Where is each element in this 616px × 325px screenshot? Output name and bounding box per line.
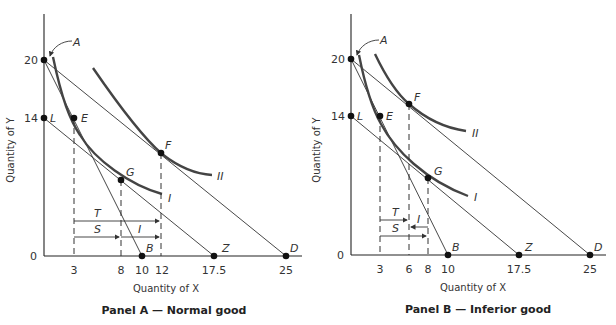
budget-line-lz xyxy=(351,116,519,255)
x-tick: 3 xyxy=(71,264,78,277)
label-z: Z xyxy=(524,241,533,254)
label-f: F xyxy=(414,91,421,104)
label-s: S xyxy=(392,222,399,235)
point-g xyxy=(425,175,432,182)
point-a xyxy=(348,56,355,63)
label-b: B xyxy=(146,242,154,255)
label-t: T xyxy=(94,207,102,220)
point-b xyxy=(445,252,452,259)
label-a: A xyxy=(379,34,388,47)
x-tick: 25 xyxy=(583,263,597,276)
label-l: L xyxy=(50,112,56,125)
label-d: D xyxy=(290,242,298,255)
diagram-canvas: T S I A L E G F B Z D I II 0 14 20 3 8 1… xyxy=(0,0,616,325)
budget-line-lz xyxy=(44,118,214,256)
label-f: F xyxy=(165,139,172,152)
label-g: G xyxy=(434,165,443,178)
panel-a: T S I A L E G F B Z D I II 0 14 20 3 8 1… xyxy=(5,14,302,317)
pointer-a xyxy=(50,41,72,56)
y-axis-label: Quantity of Y xyxy=(311,116,322,182)
x-tick: 6 xyxy=(406,263,413,276)
point-e xyxy=(71,115,78,122)
label-b: B xyxy=(452,241,460,254)
indifference-curve-i xyxy=(359,55,468,196)
panel-caption: Panel B — Inferior good xyxy=(405,303,551,316)
point-l xyxy=(41,115,48,122)
point-f xyxy=(158,150,165,157)
indifference-curve-ii xyxy=(93,68,212,175)
y-tick-14: 14 xyxy=(24,112,38,125)
x-tick: 25 xyxy=(279,264,293,277)
x-tick: 17.5 xyxy=(202,264,227,277)
x-tick: 3 xyxy=(377,263,384,276)
point-g xyxy=(118,177,125,184)
label-t: T xyxy=(392,206,400,219)
pointer-a xyxy=(357,40,379,55)
label-l: L xyxy=(357,110,363,123)
point-d xyxy=(587,252,594,259)
label-curve-ii: II xyxy=(217,170,224,183)
budget-line-ad xyxy=(351,59,590,255)
budget-line-ab xyxy=(351,59,448,255)
budget-line-ad xyxy=(44,60,286,256)
label-z: Z xyxy=(221,242,230,255)
label-curve-i: I xyxy=(474,191,477,204)
y-tick-20: 20 xyxy=(331,53,345,66)
y-tick-14: 14 xyxy=(331,110,345,123)
label-e: E xyxy=(386,110,393,123)
indifference-curve-i xyxy=(53,57,162,194)
label-a: A xyxy=(72,36,81,49)
point-e xyxy=(377,113,384,120)
point-d xyxy=(283,253,290,260)
y-tick-0: 0 xyxy=(337,249,344,262)
x-tick: 12 xyxy=(155,264,169,277)
point-z xyxy=(211,253,218,260)
label-i-effect: I xyxy=(417,213,420,226)
x-tick: 8 xyxy=(118,264,125,277)
point-z xyxy=(516,252,523,259)
y-tick-20: 20 xyxy=(24,54,38,67)
label-curve-i: I xyxy=(168,192,171,205)
label-i-effect: I xyxy=(138,223,141,236)
panel-caption: Panel A — Normal good xyxy=(102,304,247,317)
x-axis-label: Quantity of X xyxy=(440,282,506,293)
x-axis-label: Quantity of X xyxy=(133,283,199,294)
y-axis-label: Quantity of Y xyxy=(5,116,16,182)
label-curve-ii: II xyxy=(472,127,479,140)
point-l xyxy=(348,113,355,120)
point-a xyxy=(41,57,48,64)
x-tick: 17.5 xyxy=(507,263,532,276)
panel-b: T I S A L E F G B Z D I II 0 14 20 3 6 8… xyxy=(311,14,606,316)
label-e: E xyxy=(81,112,88,125)
label-d: D xyxy=(594,241,602,254)
label-g: G xyxy=(126,166,135,179)
x-tick: 8 xyxy=(425,263,432,276)
y-tick-0: 0 xyxy=(30,250,37,263)
x-tick: 10 xyxy=(135,264,149,277)
point-f xyxy=(406,101,413,108)
x-tick: 10 xyxy=(441,263,455,276)
point-b xyxy=(139,253,146,260)
label-s: S xyxy=(94,223,101,236)
